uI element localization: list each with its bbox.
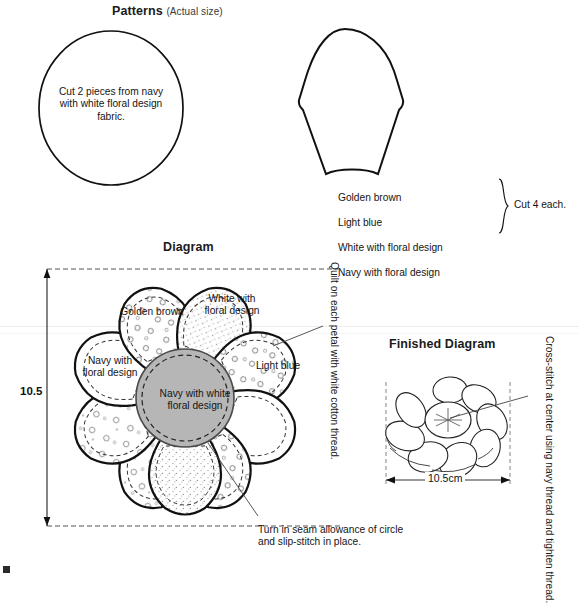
diagram-dimension-label: 10.5 [20,385,42,397]
slipstitch-callout: Turn in seam allowance of circle and sli… [258,524,478,549]
quilt-callout: Quilt on each petal with white cotton th… [340,262,538,273]
cross-stitch-callout: Cross-stitch at center using navy thread… [556,336,579,349]
petal-pattern [286,26,406,186]
cross-stitch-callout-text: Cross-stitch at center using navy thread… [543,336,556,603]
finished-diagram-title: Finished Diagram [389,337,495,351]
diagram-title: Diagram [163,240,214,254]
patterns-title-text: Patterns [112,4,163,18]
cut-each-bracket-svg [497,178,511,234]
quilt-callout-text: Quilt on each petal with white cotton th… [329,262,340,460]
petal-fabric-list: Golden brown Light blue White with flora… [338,180,508,292]
finished-dimension-label: 10.5cm [425,472,465,484]
quilt-callout-leader [273,326,323,346]
patterns-title-suffix: (Actual size) [166,6,222,17]
petal-pattern-outline [299,29,404,174]
petal-fabric-1: Light blue [338,217,508,229]
finished-flower [381,376,528,485]
petal-fabric-2: White with floral design [338,242,508,254]
petal-pattern-svg [286,26,406,186]
cut-each-bracket [497,178,511,234]
petal-label-navy-floral: Navy with floral design [68,355,152,380]
center-label: Navy with white floral design [138,388,252,413]
circle-pattern-note: Cut 2 pieces from navy with white floral… [32,86,190,123]
petal-label-light-blue: Light blue [240,360,316,372]
cut-each-note: Cut 4 each. [514,199,579,211]
petal-fabric-0: Golden brown [338,192,508,204]
petal-label-white-floral: White with floral design [192,293,272,318]
patterns-title: Patterns (Actual size) [112,4,223,18]
petal-label-golden-brown: Golden brown [106,306,198,318]
page-corner-artifact [3,566,10,573]
